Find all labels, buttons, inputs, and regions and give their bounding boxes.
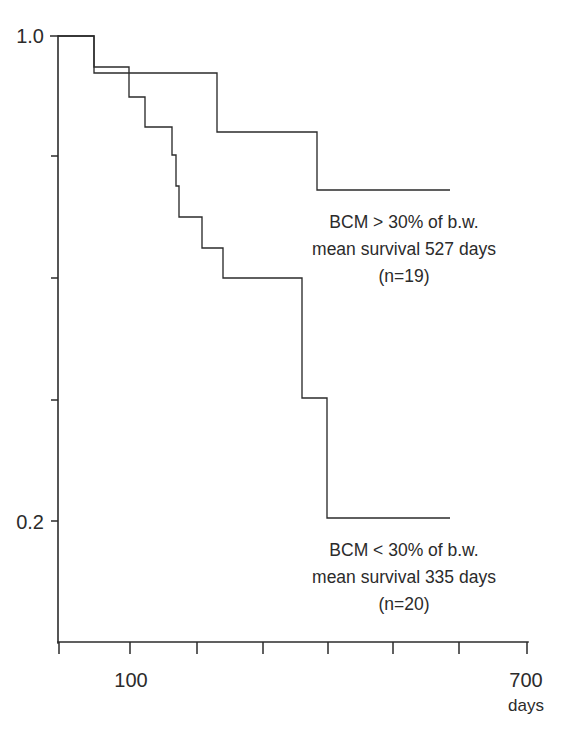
upper-annotation-line-1: BCM > 30% of b.w.: [329, 212, 478, 232]
survival-curve-bcm-above-30: [58, 36, 450, 190]
lower-annotation-line-3: (n=20): [378, 594, 429, 614]
upper-annotation-line-3: (n=19): [378, 266, 429, 286]
y-axis-ticks: [50, 36, 58, 521]
y-axis-tick-labels: 1.0 0.2: [16, 25, 44, 533]
upper-group-annotation: BCM > 30% of b.w. mean survival 527 days…: [312, 212, 496, 286]
lower-annotation-line-1: BCM < 30% of b.w.: [329, 540, 478, 560]
kaplan-meier-plot: 1.0 0.2 100 700 days BCM > 30% of b.w.: [0, 0, 563, 731]
upper-annotation-line-2: mean survival 527 days: [312, 239, 496, 259]
y-axis-label-top: 1.0: [16, 25, 44, 47]
x-axis-tick-labels: 100 700 days: [114, 669, 544, 715]
survival-curve-figure: 1.0 0.2 100 700 days BCM > 30% of b.w.: [0, 0, 563, 731]
x-axis-label-700: 700: [509, 669, 542, 691]
x-axis-label-100: 100: [114, 669, 147, 691]
x-axis-unit-label: days: [508, 696, 544, 715]
lower-annotation-line-2: mean survival 335 days: [312, 567, 496, 587]
y-axis-label-bottom: 0.2: [16, 511, 44, 533]
lower-group-annotation: BCM < 30% of b.w. mean survival 335 days…: [312, 540, 496, 614]
x-axis-ticks: [59, 642, 527, 654]
